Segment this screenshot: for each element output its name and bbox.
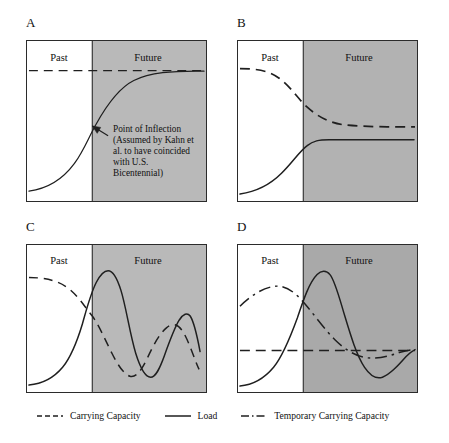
- panel-b-future-label: Future: [345, 53, 372, 64]
- panel-d-future-shading: [303, 245, 417, 392]
- panel-a-past-label: Past: [50, 53, 68, 64]
- legend-label-carrying-capacity: Carrying Capacity: [70, 411, 141, 421]
- panel-c-letter: C: [26, 220, 35, 233]
- panel-c: C Past Future: [8, 218, 224, 398]
- panel-b-future-shading: [303, 41, 417, 201]
- panel-d: D Past Future: [233, 218, 445, 398]
- panel-c-future-shading: [92, 245, 206, 392]
- legend-label-temporary-carrying-capacity: Temporary Carrying Capacity: [274, 411, 389, 421]
- figure-root: A Past Future Point of Inflection (Assum…: [0, 0, 449, 443]
- legend-item-temporary-carrying-capacity: Temporary Carrying Capacity: [241, 411, 389, 421]
- panel-d-future-label: Future: [345, 256, 372, 267]
- legend-label-load: Load: [198, 411, 218, 421]
- panel-a: A Past Future Point of Inflection (Assum…: [8, 14, 224, 210]
- legend-key-solid-icon: [165, 411, 191, 421]
- panel-c-past-label: Past: [50, 256, 68, 267]
- panel-a-letter: A: [26, 16, 35, 29]
- legend-key-dash-dot-icon: [241, 411, 267, 421]
- figure-legend: Carrying Capacity Load Temporary Carryin…: [37, 411, 389, 421]
- panel-a-future-label: Future: [134, 53, 161, 64]
- panel-c-future-label: Future: [134, 256, 161, 267]
- panel-d-past-label: Past: [261, 256, 279, 267]
- legend-item-carrying-capacity: Carrying Capacity: [37, 411, 141, 421]
- panel-d-letter: D: [237, 220, 246, 233]
- panel-b-svg: [238, 41, 417, 201]
- panel-a-inflection-annotation: Point of Inflection (Assumed by Kahn et …: [113, 124, 199, 179]
- panel-b-letter: B: [237, 16, 246, 29]
- legend-item-load: Load: [165, 411, 218, 421]
- panel-b-past-label: Past: [261, 53, 279, 64]
- panel-c-svg: [27, 245, 206, 392]
- panel-b-plot: [237, 40, 418, 202]
- legend-key-dashed-icon: [37, 411, 63, 421]
- panel-b: B Past Future: [233, 14, 445, 210]
- panel-d-svg: [238, 245, 417, 392]
